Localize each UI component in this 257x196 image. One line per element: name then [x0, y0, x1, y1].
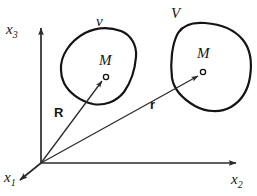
- region-large-V-outline: [171, 23, 251, 111]
- figure-canvas: [0, 0, 257, 196]
- point-label-M-in-v: M: [99, 53, 112, 68]
- region-label-v: v: [96, 14, 103, 29]
- axis-label-x2: x2: [231, 172, 243, 190]
- axis-label-x3: x3: [6, 22, 18, 40]
- point-M-in-v: [103, 74, 108, 79]
- vector-label-R: R: [54, 106, 63, 119]
- region-label-V: V: [171, 6, 180, 21]
- physics-figure: x3 x1 x2 v V M M R r: [0, 0, 257, 196]
- point-label-M-in-V: M: [197, 46, 210, 61]
- axis-x1-line: [20, 163, 41, 180]
- vector-label-r: r: [150, 98, 155, 111]
- point-M-in-V: [200, 69, 205, 74]
- axis-label-x1: x1: [4, 170, 16, 188]
